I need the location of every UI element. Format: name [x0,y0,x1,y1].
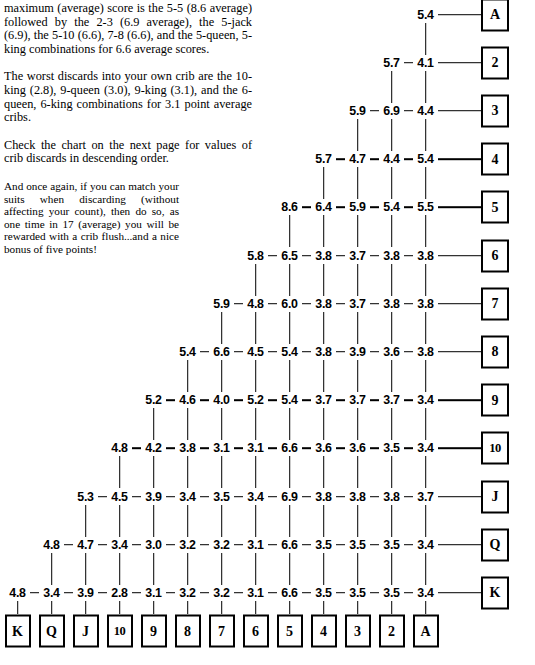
h-connector [234,448,243,450]
h-connector [404,303,413,305]
row-card-label-8[interactable]: 8 [481,335,509,368]
chart-value-Q-6: 3.1 [247,538,263,550]
v-connector-to-col-label [187,601,189,614]
h-connector [370,110,379,112]
h-connector-to-row-label [438,14,481,16]
h-connector [336,351,345,353]
h-connector [268,303,277,305]
chart-value-4-2: 4.4 [383,153,399,165]
column-card-label-Q[interactable]: Q [39,615,65,648]
h-connector [268,255,277,257]
h-connector [370,592,379,594]
row-card-label-K[interactable]: K [481,576,509,609]
h-connector [234,592,243,594]
h-connector [370,351,379,353]
h-connector [336,158,345,160]
v-connector [425,456,427,488]
v-connector [323,456,325,488]
row-card-label-A[interactable]: A [481,0,509,31]
row-card-label-Q[interactable]: Q [481,528,509,561]
v-connector [425,71,427,103]
row-card-label-6[interactable]: 6 [481,239,509,272]
chart-value-8-6: 4.5 [247,346,263,358]
chart-value-8-7: 6.6 [213,346,229,358]
h-connector [200,399,209,401]
v-connector [323,553,325,585]
h-connector [404,351,413,353]
v-connector [391,264,393,296]
column-card-label-9[interactable]: 9 [141,615,167,648]
v-connector [357,456,359,488]
column-card-label-10[interactable]: 10 [107,615,133,648]
v-connector [391,456,393,488]
v-connector [391,360,393,392]
chart-value-10-8: 3.8 [179,442,195,454]
chart-value-8-4: 3.8 [315,346,331,358]
chart-value-10-3: 3.6 [349,442,365,454]
h-connector [370,303,379,305]
v-connector [221,456,223,488]
chart-value-J-A: 3.7 [417,490,433,502]
column-card-label-5[interactable]: 5 [277,615,303,648]
chart-value-J-10: 4.5 [111,490,127,502]
h-connector-to-row-label [438,351,481,353]
chart-value-J-6: 3.4 [247,490,263,502]
v-connector-to-col-label [391,601,393,614]
h-connector [370,158,379,160]
chart-value-9-9: 5.2 [145,394,161,406]
column-card-label-8[interactable]: 8 [175,615,201,648]
h-connector [166,496,175,498]
v-connector [221,408,223,440]
column-card-label-7[interactable]: 7 [209,615,235,648]
chart-value-K-9: 3.1 [145,587,161,599]
v-connector [187,553,189,585]
v-connector [425,264,427,296]
chart-value-Q-7: 3.2 [213,538,229,550]
h-connector [64,592,73,594]
h-connector-to-row-label [438,448,481,450]
h-connector [234,351,243,353]
h-connector [404,158,413,160]
chart-value-10-A: 3.4 [417,442,433,454]
column-card-label-K[interactable]: K [5,615,31,648]
h-connector-to-row-label [438,110,481,112]
row-card-label-9[interactable]: 9 [481,384,509,417]
chart-value-K-8: 3.2 [179,587,195,599]
column-card-label-4[interactable]: 4 [311,615,337,648]
chart-value-3-2: 6.9 [383,105,399,117]
chart-value-J-7: 3.5 [213,490,229,502]
column-card-label-3[interactable]: 3 [345,615,371,648]
v-connector [119,553,121,585]
chart-value-9-6: 5.2 [247,394,263,406]
v-connector-to-col-label [85,601,87,614]
v-connector [357,119,359,151]
h-connector [370,544,379,546]
row-card-label-J[interactable]: J [481,480,509,513]
row-card-label-2[interactable]: 2 [481,46,509,79]
row-card-label-4[interactable]: 4 [481,143,509,176]
v-connector [391,119,393,151]
v-connector [357,312,359,344]
column-card-label-2[interactable]: 2 [379,615,405,648]
chart-value-8-A: 3.8 [417,346,433,358]
v-connector [221,360,223,392]
chart-value-K-J: 3.9 [77,587,93,599]
row-card-label-10[interactable]: 10 [481,432,509,465]
chart-value-2-A: 4.1 [417,56,433,68]
row-card-label-3[interactable]: 3 [481,94,509,127]
row-card-label-5[interactable]: 5 [481,191,509,224]
column-card-label-J[interactable]: J [73,615,99,648]
chart-value-9-8: 4.6 [179,394,195,406]
column-card-label-A[interactable]: A [413,615,439,648]
row-card-label-7[interactable]: 7 [481,287,509,320]
h-connector [302,207,311,209]
h-connector [336,544,345,546]
column-card-label-6[interactable]: 6 [243,615,269,648]
v-connector [221,553,223,585]
chart-value-8-2: 3.6 [383,346,399,358]
v-connector [255,264,257,296]
chart-value-K-K: 4.8 [9,587,25,599]
v-connector [187,360,189,392]
h-connector [302,592,311,594]
chart-value-9-2: 3.7 [383,394,399,406]
